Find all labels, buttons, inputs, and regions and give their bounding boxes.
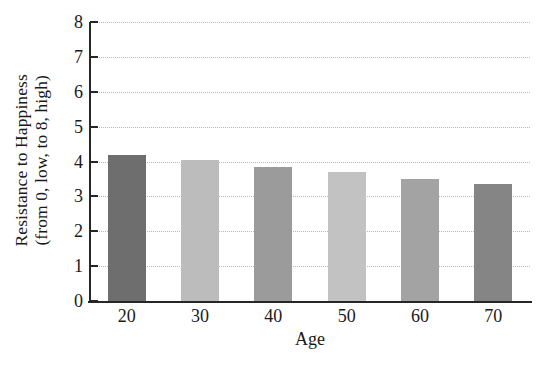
y-axis-title-line-1: Resistance to Happiness [11, 74, 31, 246]
x-tick-label: 70 [484, 307, 502, 325]
x-axis-spine [88, 301, 532, 303]
y-axis-title-text: Resistance to Happiness (from 0, low, to… [11, 74, 52, 246]
y-axis-title: Resistance to Happiness (from 0, low, to… [0, 0, 62, 320]
y-tick-label: 6 [74, 83, 83, 101]
x-tick-label: 60 [411, 307, 429, 325]
bar [254, 167, 292, 301]
y-tick-label: 7 [74, 48, 83, 66]
y-axis-title-line-2: (from 0, low, to 8, high) [31, 74, 51, 246]
bar-chart-figure: Resistance to Happiness (from 0, low, to… [0, 0, 540, 367]
y-tick-label: 5 [74, 118, 83, 136]
bar [474, 184, 512, 301]
bar [181, 160, 219, 301]
y-tick-label: 8 [74, 13, 83, 31]
y-tick-label: 1 [74, 257, 83, 275]
y-tick-label: 4 [74, 153, 83, 171]
x-axis-title: Age [90, 330, 530, 348]
plot-area: 012345678 203040506070 [90, 22, 530, 301]
x-tick-label: 20 [118, 307, 136, 325]
x-tick-label: 50 [338, 307, 356, 325]
bar-series [90, 22, 530, 301]
bar [401, 179, 439, 301]
x-tick-label: 40 [264, 307, 282, 325]
bar [108, 155, 146, 301]
x-tick-label: 30 [191, 307, 209, 325]
y-tick-label: 3 [74, 187, 83, 205]
y-tick-label: 0 [74, 292, 83, 310]
bar [328, 172, 366, 301]
y-tick-label: 2 [74, 222, 83, 240]
